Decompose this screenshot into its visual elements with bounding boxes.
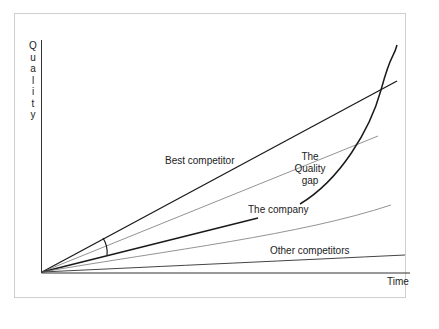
- x-axis-label: Time: [387, 276, 409, 287]
- quality-gap-line2: Quality: [290, 163, 330, 175]
- lower-competitor-curve: [42, 205, 391, 272]
- quality-gap-line3: gap: [290, 175, 330, 187]
- y-letter: u: [28, 52, 38, 64]
- quality-gap-line1: The: [290, 151, 330, 163]
- best-competitor-label: Best competitor: [165, 155, 234, 166]
- y-letter: l: [28, 75, 38, 87]
- y-letter: t: [28, 98, 38, 110]
- other-competitors-line: [42, 255, 405, 272]
- y-letter: a: [28, 63, 38, 75]
- y-axis-label: Q u a l i t y: [28, 40, 38, 121]
- y-letter: i: [28, 86, 38, 98]
- y-letter: y: [28, 109, 38, 121]
- other-competitors-label: Other competitors: [270, 245, 349, 256]
- the-company-label: The company: [248, 204, 309, 215]
- quality-gap-label: The Quality gap: [290, 151, 330, 187]
- y-letter: Q: [28, 40, 38, 52]
